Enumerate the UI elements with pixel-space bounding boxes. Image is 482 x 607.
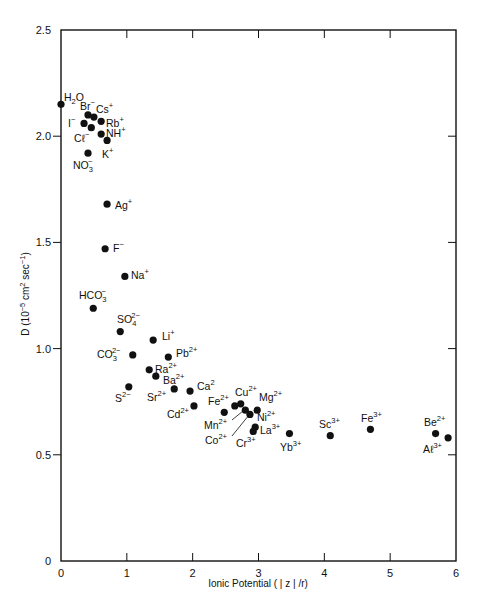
point-label: Ba2+ [163,372,185,386]
point-label: Br− [80,98,96,112]
point-label: Mg2+ [259,389,283,403]
x-axis-label: Ionic Potential ( | z | /r) [208,578,308,589]
data-point [221,409,228,416]
x-tick-label: 6 [453,567,459,579]
data-point [432,430,439,437]
point-label: K+ [102,146,114,160]
y-tick-label: 2.0 [36,130,51,142]
data-point [98,118,105,125]
point-label: I− [68,115,76,129]
x-tick-label: 2 [190,567,196,579]
x-axis-ticks: 0123456 [58,30,459,579]
data-point [286,430,293,437]
point-label: Co2+ [205,432,228,446]
x-tick-label: 1 [124,567,130,579]
x-tick-label: 4 [321,567,327,579]
point-label: HCO3− [79,287,107,304]
x-tick-label: 5 [387,567,393,579]
data-point [80,120,87,127]
point-label: Aℓ3+ [423,441,443,455]
data-point [250,428,257,435]
x-tick-label: 0 [58,567,64,579]
point-label: Ra2+ [155,361,178,375]
point-label: Yb3+ [280,439,302,453]
plot-frame [61,30,456,561]
axes-frame [61,30,456,561]
data-point [186,387,193,394]
data-point [171,385,178,392]
point-label: Fe2+ [208,393,229,407]
data-point [165,353,172,360]
data-point [190,402,197,409]
point-label: F− [113,240,124,254]
data-point [237,400,244,407]
y-tick-label: 1.5 [36,236,51,248]
y-tick-label: 0.5 [36,449,51,461]
data-point [117,328,124,335]
data-point [445,434,452,441]
data-point [90,305,97,312]
point-label: Be2+ [424,414,446,428]
y-axis-label: D (10−5 cm2 sec−1) [18,252,31,336]
data-point [367,426,374,433]
data-point [102,245,109,252]
y-tick-label: 1.0 [36,343,51,355]
data-point [84,150,91,157]
point-label: Cd2+ [167,406,190,420]
point-label: Ca2 [197,378,215,392]
point-label: Li+ [162,328,175,342]
point-label: CO32− [97,346,121,363]
point-label: Sc3+ [319,416,340,430]
point-label: Cℓ− [74,130,90,144]
leader-line [232,411,243,420]
point-label: NO3− [73,157,93,174]
point-label: Sr2+ [147,389,167,403]
data-point [103,201,110,208]
point-label: NH+ [106,125,126,139]
data-point [146,366,153,373]
y-tick-label: 2.5 [36,24,51,36]
scatter-chart: 0123456 00.51.01.52.02.5 Ionic Potential… [0,0,482,607]
point-label: Cr3+ [236,435,256,449]
point-label: S2− [115,390,131,404]
data-point [121,273,128,280]
point-label: Ag+ [115,197,133,211]
point-label: La3+ [260,422,281,436]
data-point [327,432,334,439]
point-label: Cu2+ [235,384,258,398]
data-point [129,351,136,358]
point-label: Na+ [131,267,149,281]
point-label: Mn2+ [204,417,228,431]
point-label: Ni2+ [257,409,276,423]
point-label: Pb2+ [176,345,198,359]
point-labels: H2OBr−Cs+I−Rb+Cℓ−NH+K+NO3−Ag+F−Na+HCO3−S… [64,91,446,455]
point-label: SO42− [117,311,141,328]
data-point [150,337,157,344]
data-point [98,130,105,137]
point-label: Cs+ [96,101,114,115]
y-tick-label: 0 [45,555,51,567]
point-label: Fe3+ [361,410,382,424]
